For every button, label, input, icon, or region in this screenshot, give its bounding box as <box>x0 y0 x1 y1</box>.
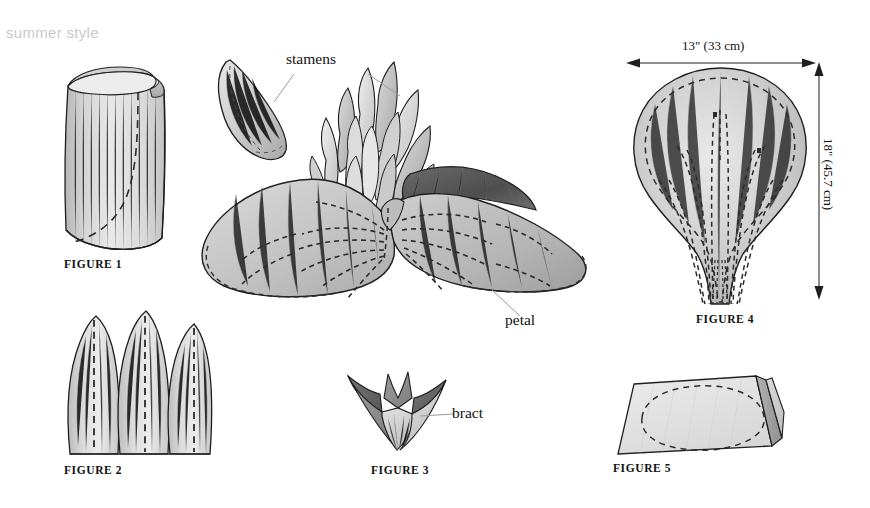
figure-4-artwork <box>625 64 815 310</box>
figure-1-artwork <box>52 62 182 262</box>
stamens-leader-lines <box>250 52 450 112</box>
dimension-height-label: 18" (45.7 cm) <box>820 138 836 210</box>
figure-2-artwork <box>58 306 218 456</box>
callout-petal: petal <box>505 311 535 329</box>
figure-5-caption: FIGURE 5 <box>613 462 671 474</box>
dimension-width-label: 13" (33 cm) <box>682 38 744 54</box>
figure-3-caption: FIGURE 3 <box>371 464 429 476</box>
figure-2-caption: FIGURE 2 <box>64 464 122 476</box>
figure-5-artwork <box>606 372 786 462</box>
callout-bract: bract <box>452 404 483 422</box>
figure-1-caption: FIGURE 1 <box>64 258 122 270</box>
figure-4-caption: FIGURE 4 <box>696 313 754 325</box>
callout-stamens: stamens <box>286 50 336 68</box>
illustration-page: summer style <box>0 0 870 508</box>
running-head: summer style <box>6 24 99 41</box>
